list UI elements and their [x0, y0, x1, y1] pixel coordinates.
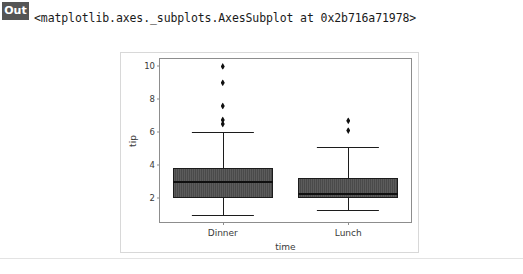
whisker-lower [348, 198, 349, 210]
output-repr-text: <matplotlib.axes._subplots.AxesSubplot a… [34, 11, 416, 25]
outlier-marker [221, 63, 225, 70]
outlier-marker [346, 127, 350, 134]
cap-upper [192, 132, 254, 133]
x-tick-mark [348, 222, 349, 225]
y-tick-mark [157, 165, 160, 166]
matplotlib-figure: tip time 246810DinnerLunch [120, 52, 419, 253]
plot-surface [160, 59, 411, 222]
box-hatch [174, 169, 272, 197]
y-tick-mark [157, 99, 160, 100]
outlier-marker [221, 102, 225, 109]
median-line-lunch [298, 193, 398, 195]
cap-lower [317, 210, 379, 211]
plot-axes: tip time 246810DinnerLunch [159, 58, 412, 223]
whisker-upper [348, 147, 349, 177]
y-tick-label: 6 [150, 127, 155, 137]
x-axis-label: time [275, 242, 295, 252]
outlier-marker [346, 117, 350, 124]
y-tick-label: 2 [150, 193, 155, 203]
notebook-output-cell: Out <matplotlib.axes._subplots.AxesSubpl… [0, 0, 523, 258]
outlier-marker [221, 79, 225, 86]
y-tick-label: 4 [150, 160, 155, 170]
y-axis-label: tip [128, 135, 138, 147]
box-dinner [173, 168, 273, 198]
x-tick-label-lunch: Lunch [335, 228, 362, 238]
page-bottom-strip [0, 258, 523, 274]
x-tick-label-dinner: Dinner [208, 228, 238, 238]
x-tick-mark [223, 222, 224, 225]
y-tick-label: 10 [144, 61, 155, 71]
y-tick-label: 8 [150, 94, 155, 104]
y-tick-mark [157, 132, 160, 133]
box-lunch [298, 178, 398, 199]
whisker-lower [223, 198, 224, 214]
median-line-dinner [173, 181, 273, 183]
output-gutter-divider [30, 0, 31, 258]
y-tick-mark [157, 66, 160, 67]
cap-upper [317, 147, 379, 148]
y-tick-mark [157, 198, 160, 199]
cap-lower [192, 215, 254, 216]
output-prompt-badge: Out [2, 2, 29, 20]
outlier-marker [221, 116, 225, 123]
whisker-upper [223, 132, 224, 168]
